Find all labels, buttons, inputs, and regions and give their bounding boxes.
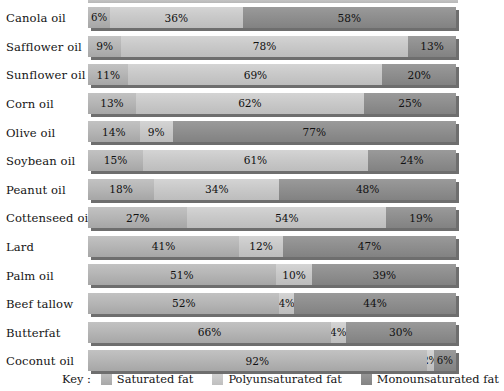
segment-value: 78% [253, 40, 277, 52]
bar-segment: 13% [408, 36, 456, 57]
chart-row: Canola oil6%36%58% [0, 4, 468, 33]
row-label: Palm oil [6, 269, 54, 283]
bar: 9%78%13% [88, 36, 456, 57]
segment-value: 39% [372, 269, 396, 281]
bar-segment: 54% [187, 207, 386, 228]
segment-value: 13% [420, 40, 444, 52]
row-label: Beef tallow [6, 297, 73, 311]
bar-segment: 27% [88, 207, 187, 228]
bar-segment: 15% [88, 150, 143, 171]
clipped-row-sliver [88, 0, 458, 3]
bar: 11%69%20% [88, 64, 456, 85]
bar-segment: 69% [128, 64, 382, 85]
bar-segment: 9% [88, 36, 121, 57]
bar: 6%36%58% [88, 7, 456, 28]
chart-row: Butterfat66%4%30% [0, 319, 468, 348]
segment-value: 12% [249, 240, 273, 252]
legend-swatch-icon [361, 374, 372, 385]
bar-segment: 19% [386, 207, 456, 228]
bar-segment: 4% [331, 322, 346, 343]
segment-value: 10% [282, 269, 306, 281]
bar-segment: 61% [143, 150, 367, 171]
bar-segment: 18% [88, 179, 154, 200]
segment-value: 61% [244, 154, 268, 166]
legend-swatch-icon [101, 374, 112, 385]
chart-row: Peanut oil18%34%48% [0, 176, 468, 205]
segment-value: 47% [358, 240, 382, 252]
chart-row: Corn oil13%62%25% [0, 90, 468, 119]
bar-track: 51%10%39% [88, 264, 456, 285]
segment-value: 52% [172, 297, 196, 309]
segment-value: 69% [244, 69, 268, 81]
segment-value: 54% [275, 212, 299, 224]
bar: 51%10%39% [88, 264, 456, 285]
bar-segment: 36% [110, 7, 242, 28]
segment-value: 20% [407, 69, 431, 81]
bar-segment: 4% [279, 293, 294, 314]
bar-track: 13%62%25% [88, 93, 456, 114]
bar-segment: 12% [239, 236, 283, 257]
bar-segment: 47% [283, 236, 456, 257]
segment-value: 62% [238, 97, 262, 109]
bar: 52%4%44% [88, 293, 456, 314]
chart-row: Olive oil14%9%77% [0, 118, 468, 147]
bar-track: 66%4%30% [88, 322, 456, 343]
bar-segment: 48% [279, 179, 456, 200]
bar-segment: 13% [88, 93, 136, 114]
segment-value: 44% [363, 297, 387, 309]
row-label: Olive oil [6, 126, 55, 140]
segment-value: 92% [246, 355, 270, 367]
chart-row: Palm oil51%10%39% [0, 261, 468, 290]
legend-label: Polyunsaturated fat [228, 372, 341, 386]
chart-row: Safflower oil9%78%13% [0, 33, 468, 62]
segment-value: 19% [409, 212, 433, 224]
segment-value: 6% [437, 355, 453, 366]
bar-segment: 24% [368, 150, 456, 171]
row-label: Sunflower oil [6, 68, 86, 82]
segment-value: 9% [96, 40, 113, 52]
chart-row: Sunflower oil11%69%20% [0, 61, 468, 90]
chart-row: Cottenseed oil27%54%19% [0, 204, 468, 233]
segment-value: 36% [165, 12, 189, 24]
bar: 27%54%19% [88, 207, 456, 228]
bar-segment: 2% [427, 350, 434, 371]
row-label: Canola oil [6, 11, 66, 25]
bar: 18%34%48% [88, 179, 456, 200]
chart-rows: Canola oil6%36%58%Safflower oil9%78%13%S… [0, 4, 468, 376]
segment-value: 30% [389, 326, 413, 338]
bar-segment: 58% [243, 7, 456, 28]
bar-segment: 30% [346, 322, 456, 343]
segment-value: 25% [398, 97, 422, 109]
bar-segment: 25% [364, 93, 456, 114]
bar-track: 18%34%48% [88, 179, 456, 200]
legend-items: Saturated fatPolyunsaturated fatMonounsa… [101, 372, 504, 386]
bar-segment: 20% [382, 64, 456, 85]
row-label: Lard [6, 240, 34, 254]
bar-track: 27%54%19% [88, 207, 456, 228]
bar-track: 6%36%58% [88, 7, 456, 28]
legend-swatch-icon [212, 374, 223, 385]
legend-item: Monounsaturated fat [361, 372, 499, 386]
bar: 41%12%47% [88, 236, 456, 257]
chart-legend: Key : Saturated fatPolyunsaturated fatMo… [0, 369, 468, 389]
segment-value: 41% [152, 240, 176, 252]
bar-segment: 14% [88, 121, 140, 142]
row-label: Butterfat [6, 326, 60, 340]
segment-value: 27% [126, 212, 150, 224]
bar-track: 52%4%44% [88, 293, 456, 314]
segment-value: 9% [148, 126, 165, 138]
bar-segment: 11% [88, 64, 128, 85]
segment-value: 14% [102, 126, 126, 138]
legend-label: Saturated fat [117, 372, 194, 386]
bar: 92%2%6% [88, 350, 456, 371]
segment-value: 13% [100, 97, 124, 109]
bar-track: 9%78%13% [88, 36, 456, 57]
bar-segment: 51% [88, 264, 276, 285]
bar-segment: 78% [121, 36, 408, 57]
bar-track: 41%12%47% [88, 236, 456, 257]
chart-row: Soybean oil15%61%24% [0, 147, 468, 176]
segment-value: 24% [400, 154, 424, 166]
bar-segment: 92% [88, 350, 427, 371]
bar-track: 11%69%20% [88, 64, 456, 85]
bar-segment: 6% [434, 350, 456, 371]
